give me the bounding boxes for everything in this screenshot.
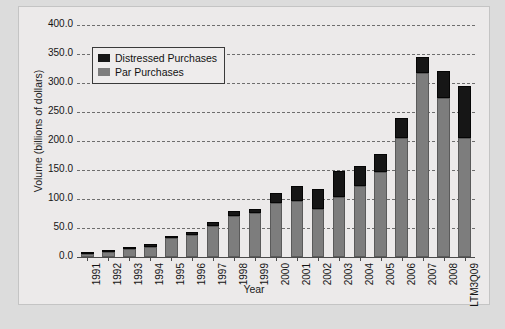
- bar-segment-distressed-purchases: [437, 71, 450, 97]
- bar-segment-distressed-purchases: [416, 57, 429, 73]
- bar-segment-distressed-purchases: [291, 186, 304, 201]
- bar-segment-distressed-purchases: [186, 232, 199, 235]
- bar-segment-distressed-purchases: [207, 222, 220, 226]
- x-tick-mark: [192, 257, 193, 261]
- bar-segment-par-purchases: [312, 209, 325, 257]
- bar-stack: [270, 25, 283, 257]
- x-tick-mark: [87, 257, 88, 261]
- bar-segment-distressed-purchases: [374, 154, 387, 173]
- x-tick-label: 1998: [238, 263, 249, 285]
- x-tick-mark: [297, 257, 298, 261]
- x-tick-mark: [234, 257, 235, 261]
- bar-segment-distressed-purchases: [165, 236, 178, 239]
- x-axis-title: Year: [19, 283, 489, 295]
- x-tick-label: 1994: [154, 263, 165, 285]
- bar-segment-par-purchases: [123, 249, 136, 257]
- x-tick-label: 2004: [364, 263, 375, 285]
- bar-segment-par-purchases: [291, 201, 304, 257]
- bar-segment-distressed-purchases: [333, 171, 346, 197]
- x-tick-mark: [276, 257, 277, 261]
- chart-legend: Distressed PurchasesPar Purchases: [92, 47, 225, 84]
- x-tick-mark: [129, 257, 130, 261]
- y-tick-label: 300.0: [27, 76, 73, 87]
- bar-segment-distressed-purchases: [312, 189, 325, 210]
- x-tick-label: 2003: [343, 263, 354, 285]
- bar-stack: [374, 25, 387, 257]
- y-axis-title: Volume (billions of dollars): [32, 46, 44, 216]
- bar-segment-par-purchases: [374, 172, 387, 257]
- bar-segment-par-purchases: [207, 226, 220, 257]
- x-tick-label: 1997: [217, 263, 228, 285]
- x-tick-label: 2005: [385, 263, 396, 285]
- x-tick-mark: [381, 257, 382, 261]
- plot-area: 400.0350.0300.0250.0200.0150.0100.050.00…: [77, 25, 475, 257]
- bar-segment-distressed-purchases: [228, 211, 241, 216]
- bar-stack: [458, 25, 471, 257]
- bar-segment-par-purchases: [416, 73, 429, 257]
- x-tick-label: 2001: [301, 263, 312, 285]
- legend-label: Par Purchases: [115, 66, 184, 78]
- legend-item: Par Purchases: [98, 65, 217, 79]
- legend-label: Distressed Purchases: [115, 52, 217, 64]
- bar-stack: [395, 25, 408, 257]
- bar-segment-par-purchases: [333, 197, 346, 257]
- x-tick-label: 2007: [427, 263, 438, 285]
- legend-swatch-icon: [98, 54, 110, 62]
- x-tick-label: 1992: [112, 263, 123, 285]
- bar-segment-par-purchases: [354, 186, 367, 257]
- y-tick-label: 0.0: [27, 250, 73, 261]
- x-tick-mark: [171, 257, 172, 261]
- x-tick-label: 2006: [406, 263, 417, 285]
- y-tick-label: 250.0: [27, 105, 73, 116]
- bar-segment-distressed-purchases: [354, 166, 367, 186]
- x-tick-label: 1993: [133, 263, 144, 285]
- bar-segment-distressed-purchases: [123, 247, 136, 249]
- x-tick-label: 2008: [448, 263, 459, 285]
- bar-stack: [312, 25, 325, 257]
- bar-segment-distressed-purchases: [144, 244, 157, 247]
- x-tick-mark: [108, 257, 109, 261]
- bar-segment-par-purchases: [144, 247, 157, 257]
- bar-segment-par-purchases: [458, 138, 471, 257]
- x-tick-mark: [360, 257, 361, 261]
- bar-segment-par-purchases: [249, 213, 262, 257]
- y-tick-label: 200.0: [27, 134, 73, 145]
- bar-segment-par-purchases: [165, 238, 178, 257]
- y-tick-label: 100.0: [27, 192, 73, 203]
- y-tick-label: 350.0: [27, 47, 73, 58]
- bar-stack: [416, 25, 429, 257]
- x-tick-label: 1991: [91, 263, 102, 285]
- bar-stack: [249, 25, 262, 257]
- legend-item: Distressed Purchases: [98, 51, 217, 65]
- x-tick-label: 1996: [196, 263, 207, 285]
- bar-segment-par-purchases: [228, 216, 241, 257]
- bar-stack: [228, 25, 241, 257]
- x-tick-mark: [318, 257, 319, 261]
- y-tick-label: 50.0: [27, 221, 73, 232]
- x-tick-mark: [465, 257, 466, 261]
- x-tick-mark: [213, 257, 214, 261]
- bar-segment-distressed-purchases: [458, 86, 471, 138]
- bar-segment-par-purchases: [270, 203, 283, 257]
- bar-segment-distressed-purchases: [270, 193, 283, 203]
- x-tick-mark: [255, 257, 256, 261]
- bar-segment-par-purchases: [395, 138, 408, 257]
- x-tick-mark: [150, 257, 151, 261]
- bar-segment-distressed-purchases: [395, 118, 408, 138]
- bar-stack: [437, 25, 450, 257]
- x-tick-label: 1999: [259, 263, 270, 285]
- bar-segment-par-purchases: [186, 235, 199, 257]
- legend-swatch-icon: [98, 68, 110, 76]
- bar-segment-distressed-purchases: [249, 209, 262, 213]
- x-tick-label: LTM3Q09: [469, 263, 480, 307]
- x-tick-mark: [444, 257, 445, 261]
- bar-stack: [333, 25, 346, 257]
- bar-segment-par-purchases: [437, 98, 450, 258]
- x-tick-mark: [339, 257, 340, 261]
- y-tick-label: 400.0: [27, 18, 73, 29]
- chart-figure: Volume (billions of dollars) Year 400.03…: [18, 6, 490, 305]
- bar-stack: [354, 25, 367, 257]
- bar-segment-distressed-purchases: [81, 252, 94, 254]
- y-tick-label: 150.0: [27, 163, 73, 174]
- x-tick-mark: [423, 257, 424, 261]
